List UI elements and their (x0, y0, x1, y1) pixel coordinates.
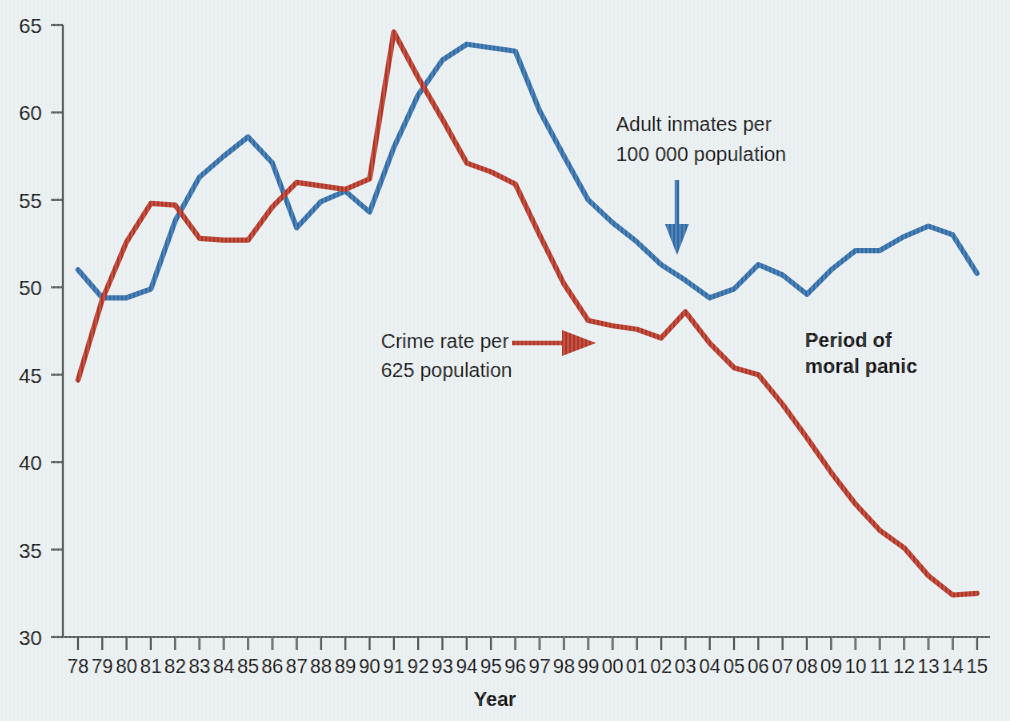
inmates-annotation-line1: Adult inmates per (616, 113, 772, 135)
y-tick-label: 65 (19, 14, 42, 37)
y-tick-group: 3035404550556065 (19, 14, 63, 649)
y-tick-label: 55 (19, 189, 42, 212)
crime-rate-annotation-line1: Crime rate per (381, 330, 509, 352)
x-tick-label: 82 (164, 655, 186, 677)
x-tick-label: 12 (893, 655, 915, 677)
x-tick-group: 7879808182838485868788899091929394959697… (67, 637, 988, 677)
y-tick-label: 45 (19, 364, 42, 387)
x-tick-label: 84 (213, 655, 235, 677)
x-tick-label: 04 (699, 655, 721, 677)
x-tick-label: 78 (67, 655, 89, 677)
x-tick-label: 03 (675, 655, 697, 677)
x-tick-label: 92 (407, 655, 429, 677)
x-tick-label: 81 (140, 655, 162, 677)
x-tick-label: 97 (529, 655, 551, 677)
x-tick-label: 79 (91, 655, 113, 677)
x-tick-label: 02 (650, 655, 672, 677)
crime-rate-annotation-line2: 625 population (381, 359, 512, 381)
line-chart: 3035404550556065 78798081828384858687888… (0, 0, 1010, 721)
x-tick-label: 89 (334, 655, 356, 677)
x-tick-label: 13 (918, 655, 940, 677)
moral-panic-label-line1: Period of (805, 329, 892, 351)
y-tick-label: 30 (19, 626, 42, 649)
x-tick-label: 11 (870, 655, 890, 677)
x-tick-label: 87 (286, 655, 308, 677)
x-tick-label: 00 (602, 655, 624, 677)
y-tick-label: 40 (19, 451, 42, 474)
y-tick-label: 60 (19, 101, 42, 124)
x-tick-label: 08 (796, 655, 818, 677)
y-tick-label: 35 (19, 539, 42, 562)
x-tick-label: 06 (747, 655, 769, 677)
x-tick-label: 94 (456, 655, 478, 677)
series-line-crime-rate (78, 32, 977, 595)
x-tick-label: 83 (189, 655, 211, 677)
chart-page: 3035404550556065 78798081828384858687888… (0, 0, 1010, 721)
y-tick-label: 50 (19, 276, 42, 299)
x-tick-label: 99 (577, 655, 599, 677)
x-tick-label: 93 (432, 655, 454, 677)
down-arrow-head-icon (665, 224, 689, 255)
x-tick-label: 96 (504, 655, 526, 677)
x-tick-label: 05 (723, 655, 745, 677)
x-tick-label: 88 (310, 655, 332, 677)
x-tick-label: 14 (942, 655, 964, 677)
x-tick-label: 07 (772, 655, 794, 677)
x-tick-label: 85 (237, 655, 259, 677)
x-tick-label: 86 (262, 655, 284, 677)
x-tick-label: 15 (966, 655, 988, 677)
x-tick-label: 98 (553, 655, 575, 677)
series-line-inmates (78, 44, 977, 298)
x-tick-label: 10 (845, 655, 867, 677)
x-tick-label: 09 (820, 655, 842, 677)
x-tick-label: 90 (359, 655, 381, 677)
inmates-annotation-line2: 100 000 population (616, 143, 786, 165)
x-tick-label: 91 (383, 655, 405, 677)
x-tick-label: 80 (116, 655, 138, 677)
crime-rate-annotation-arrow (512, 330, 596, 356)
right-arrow-head-icon (562, 330, 596, 356)
x-tick-label: 01 (626, 655, 648, 677)
x-tick-label: 95 (480, 655, 502, 677)
series-group (78, 32, 977, 595)
moral-panic-label-line2: moral panic (805, 355, 917, 377)
x-axis-title: Year (474, 688, 516, 710)
inmates-annotation-arrow (665, 180, 689, 255)
